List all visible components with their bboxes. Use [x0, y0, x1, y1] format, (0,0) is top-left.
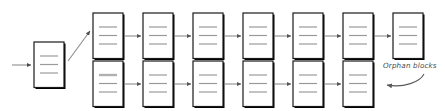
orphan-chain-block	[293, 61, 325, 108]
genesis-block	[34, 42, 66, 89]
orphan-chain-block	[193, 61, 225, 108]
orphan-chain-block	[343, 61, 375, 108]
orphan-blocks-label: Orphan blocks	[383, 62, 437, 69]
diagram-canvas	[0, 0, 445, 111]
main-chain-block	[193, 13, 225, 60]
fork-connector	[68, 31, 90, 61]
main-chain-block	[343, 13, 375, 60]
main-chain-block	[93, 13, 125, 60]
main-chain-block	[293, 13, 325, 60]
main-chain-block	[243, 13, 275, 60]
blockchain-fork-diagram: Orphan blocks	[0, 0, 445, 111]
orphan-chain-row	[93, 61, 375, 108]
orphan-chain-block	[143, 61, 175, 108]
orphan-chain-block	[243, 61, 275, 108]
main-chain-block	[393, 13, 425, 60]
main-chain-block	[143, 13, 175, 60]
orphan-chain-block	[93, 61, 125, 108]
orphan-blocks-callout-arrow	[387, 74, 424, 86]
main-chain-row	[93, 13, 425, 60]
